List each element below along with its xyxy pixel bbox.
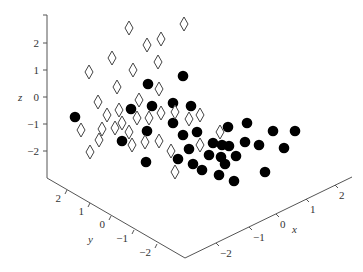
y-axis-line bbox=[47, 178, 185, 258]
data-point-circle bbox=[242, 118, 253, 129]
data-point-circle bbox=[178, 71, 189, 82]
y-tick bbox=[65, 190, 67, 194]
data-point-circle bbox=[126, 104, 137, 115]
data-points bbox=[70, 17, 301, 186]
z-tick-label: 2 bbox=[34, 37, 40, 49]
y-tick-label: −2 bbox=[139, 246, 151, 258]
data-point-circle bbox=[214, 170, 225, 181]
data-point-circle bbox=[184, 144, 195, 155]
data-point-circle bbox=[178, 130, 189, 141]
data-point-circle bbox=[268, 126, 279, 137]
y-axis-label: y bbox=[87, 233, 93, 245]
data-point-circle bbox=[70, 112, 81, 123]
data-point-circle bbox=[254, 140, 265, 151]
x-tick-label: −2 bbox=[220, 247, 232, 259]
data-point-circle bbox=[147, 101, 158, 112]
data-point-circle bbox=[168, 98, 179, 109]
data-point-diamond bbox=[128, 138, 136, 152]
data-point-diamond bbox=[155, 82, 163, 96]
data-point-circle bbox=[279, 143, 290, 154]
data-point-circle bbox=[224, 141, 235, 152]
data-point-circle bbox=[260, 167, 271, 178]
data-point-circle bbox=[240, 137, 251, 148]
z-tick-label: 0 bbox=[34, 91, 40, 103]
data-point-circle bbox=[173, 154, 184, 165]
z-tick-label: 1 bbox=[34, 64, 40, 76]
data-point-circle bbox=[223, 122, 234, 133]
y-tick-label: 1 bbox=[79, 205, 85, 217]
data-point-diamond bbox=[196, 138, 204, 152]
x-tick bbox=[216, 243, 219, 246]
data-point-diamond bbox=[180, 17, 188, 31]
x-tick bbox=[335, 185, 338, 188]
data-point-diamond bbox=[185, 112, 193, 126]
x-tick-label: 0 bbox=[280, 218, 286, 230]
data-point-diamond bbox=[103, 108, 111, 122]
scatter-plot-3d: 210−1−2z210−1−2y−2−1012x bbox=[0, 0, 363, 272]
data-point-diamond bbox=[125, 21, 133, 35]
data-point-diamond bbox=[115, 103, 123, 117]
y-tick-label: 0 bbox=[100, 218, 106, 230]
data-point-diamond bbox=[143, 38, 151, 52]
data-point-circle bbox=[204, 150, 215, 161]
data-point-circle bbox=[197, 165, 208, 176]
data-point-diamond bbox=[86, 145, 94, 159]
data-point-diamond bbox=[157, 32, 165, 46]
z-tick-label: −2 bbox=[27, 145, 39, 157]
x-tick bbox=[306, 199, 309, 202]
data-point-circle bbox=[143, 79, 154, 90]
y-tick bbox=[88, 203, 90, 207]
y-tick-label: 2 bbox=[56, 192, 62, 204]
data-point-diamond bbox=[125, 125, 133, 139]
y-tick bbox=[132, 230, 134, 234]
data-point-diamond bbox=[85, 65, 93, 79]
x-axis-label: x bbox=[291, 223, 297, 235]
data-point-circle bbox=[141, 157, 152, 168]
data-point-diamond bbox=[157, 106, 165, 120]
data-point-circle bbox=[186, 101, 197, 112]
data-point-circle bbox=[188, 159, 199, 170]
z-axis-label: z bbox=[17, 91, 23, 103]
y-tick bbox=[155, 244, 157, 248]
data-point-diamond bbox=[77, 123, 85, 137]
data-point-diamond bbox=[135, 93, 143, 107]
z-tick-label: −1 bbox=[27, 118, 39, 130]
data-point-circle bbox=[117, 136, 128, 147]
y-tick-label: −1 bbox=[116, 232, 128, 244]
x-tick-label: 2 bbox=[339, 189, 345, 201]
data-point-diamond bbox=[129, 63, 137, 77]
data-point-diamond bbox=[113, 80, 121, 94]
data-point-diamond bbox=[154, 55, 162, 69]
x-tick-label: 1 bbox=[310, 203, 316, 215]
data-point-circle bbox=[231, 151, 242, 162]
axis-labels: 210−1−2z210−1−2y−2−1012x bbox=[17, 37, 345, 259]
data-point-diamond bbox=[171, 165, 179, 179]
x-tick-label: −1 bbox=[253, 231, 265, 243]
data-point-circle bbox=[208, 138, 219, 149]
data-point-circle bbox=[192, 127, 203, 138]
data-point-circle bbox=[142, 126, 153, 137]
x-axis-line bbox=[185, 177, 352, 258]
data-point-diamond bbox=[196, 108, 204, 122]
data-point-diamond bbox=[155, 134, 163, 148]
y-tick bbox=[109, 216, 111, 220]
data-point-diamond bbox=[141, 135, 149, 149]
data-point-circle bbox=[290, 126, 301, 137]
data-point-diamond bbox=[145, 111, 153, 125]
data-point-circle bbox=[229, 176, 240, 187]
x-tick bbox=[276, 214, 279, 217]
x-tick bbox=[249, 227, 252, 230]
data-point-circle bbox=[220, 159, 231, 170]
data-point-diamond bbox=[108, 51, 116, 65]
data-point-diamond bbox=[94, 95, 102, 109]
data-point-circle bbox=[168, 118, 179, 129]
